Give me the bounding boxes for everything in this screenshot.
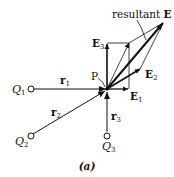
labels: resultant E E3 E2 E1 P r1 r2 r3 Q1 Q2 Q3 xyxy=(12,8,172,172)
r3-label: r3 xyxy=(111,110,121,124)
point-p-dot xyxy=(105,87,109,91)
resultant-leader xyxy=(137,20,146,40)
e3-label: E3 xyxy=(92,37,104,51)
electric-field-superposition-diagram: resultant E E3 E2 E1 P r1 r2 r3 Q1 Q2 Q3 xyxy=(0,0,174,177)
r1-label: r1 xyxy=(60,74,70,88)
e2-label: E2 xyxy=(145,68,157,82)
resultant-label: resultant E xyxy=(112,8,172,20)
r2-label: r2 xyxy=(51,106,61,120)
q2-label: Q2 xyxy=(15,135,29,149)
figure-caption: (a) xyxy=(79,160,96,172)
distance-lines xyxy=(33,89,107,134)
charge-q3-circle xyxy=(104,133,110,139)
q3-label: Q3 xyxy=(102,140,116,154)
p-label-leader xyxy=(98,78,105,87)
point-p-label: P xyxy=(91,70,98,82)
q1-label: Q1 xyxy=(12,83,26,97)
r2-line xyxy=(33,91,105,134)
charge-q2-circle xyxy=(28,133,34,139)
charge-q1-circle xyxy=(28,86,34,92)
e1-label: E1 xyxy=(130,90,142,104)
